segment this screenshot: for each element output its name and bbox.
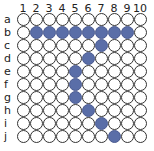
well-i9	[121, 117, 134, 130]
well-i7	[95, 117, 108, 130]
well-c10	[134, 39, 147, 52]
well-g10	[134, 91, 147, 104]
well-c2	[30, 39, 43, 52]
row-label-d: d	[4, 53, 11, 64]
well-c1	[17, 39, 30, 52]
well-d3	[43, 52, 56, 65]
well-b2	[30, 26, 43, 39]
well-g9	[121, 91, 134, 104]
row-label-e: e	[4, 66, 11, 77]
well-d4	[56, 52, 69, 65]
well-f1	[17, 78, 30, 91]
well-j9	[121, 130, 134, 143]
well-f6	[82, 78, 95, 91]
well-i5	[69, 117, 82, 130]
well-a4	[56, 13, 69, 26]
well-h5	[69, 104, 82, 117]
well-h4	[56, 104, 69, 117]
well-b7	[95, 26, 108, 39]
well-d9	[121, 52, 134, 65]
well-j3	[43, 130, 56, 143]
row-label-b: b	[4, 27, 11, 38]
well-c6	[82, 39, 95, 52]
well-f5	[69, 78, 82, 91]
well-g8	[108, 91, 121, 104]
well-b5	[69, 26, 82, 39]
well-e1	[17, 65, 30, 78]
well-c4	[56, 39, 69, 52]
well-g7	[95, 91, 108, 104]
well-f7	[95, 78, 108, 91]
well-a5	[69, 13, 82, 26]
well-g5	[69, 91, 82, 104]
well-e6	[82, 65, 95, 78]
well-f2	[30, 78, 43, 91]
well-d2	[30, 52, 43, 65]
well-e3	[43, 65, 56, 78]
well-g1	[17, 91, 30, 104]
well-c9	[121, 39, 134, 52]
well-i6	[82, 117, 95, 130]
well-h8	[108, 104, 121, 117]
well-a6	[82, 13, 95, 26]
well-h2	[30, 104, 43, 117]
well-e4	[56, 65, 69, 78]
row-label-j: j	[4, 131, 7, 142]
well-f4	[56, 78, 69, 91]
well-h3	[43, 104, 56, 117]
well-f9	[121, 78, 134, 91]
well-h6	[82, 104, 95, 117]
well-h1	[17, 104, 30, 117]
well-j8	[108, 130, 121, 143]
well-i1	[17, 117, 30, 130]
well-b1	[17, 26, 30, 39]
well-i3	[43, 117, 56, 130]
well-b4	[56, 26, 69, 39]
row-label-c: c	[4, 40, 10, 51]
well-i2	[30, 117, 43, 130]
well-i4	[56, 117, 69, 130]
well-c8	[108, 39, 121, 52]
well-c7	[95, 39, 108, 52]
well-j5	[69, 130, 82, 143]
well-f8	[108, 78, 121, 91]
well-h7	[95, 104, 108, 117]
well-a1	[17, 13, 30, 26]
row-label-a: a	[4, 14, 11, 25]
row-label-f: f	[4, 79, 8, 90]
well-d1	[17, 52, 30, 65]
well-e2	[30, 65, 43, 78]
well-b6	[82, 26, 95, 39]
well-j1	[17, 130, 30, 143]
well-d10	[134, 52, 147, 65]
well-a10	[134, 13, 147, 26]
well-d7	[95, 52, 108, 65]
well-d8	[108, 52, 121, 65]
well-b3	[43, 26, 56, 39]
well-a9	[121, 13, 134, 26]
well-a7	[95, 13, 108, 26]
well-plate-diagram: 12345678910abcdefghij	[0, 0, 154, 151]
well-e5	[69, 65, 82, 78]
well-h10	[134, 104, 147, 117]
row-label-h: h	[4, 105, 11, 116]
well-a8	[108, 13, 121, 26]
well-h9	[121, 104, 134, 117]
well-e9	[121, 65, 134, 78]
well-f10	[134, 78, 147, 91]
well-a3	[43, 13, 56, 26]
well-i8	[108, 117, 121, 130]
row-label-i: i	[4, 118, 7, 129]
well-g3	[43, 91, 56, 104]
well-e7	[95, 65, 108, 78]
well-d6	[82, 52, 95, 65]
well-f3	[43, 78, 56, 91]
well-b10	[134, 26, 147, 39]
well-g2	[30, 91, 43, 104]
well-e10	[134, 65, 147, 78]
row-label-g: g	[4, 92, 11, 103]
well-i10	[134, 117, 147, 130]
well-j7	[95, 130, 108, 143]
well-j10	[134, 130, 147, 143]
well-j2	[30, 130, 43, 143]
